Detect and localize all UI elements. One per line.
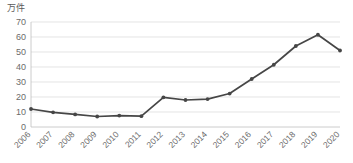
y-axis-tick-label: 10 [16, 107, 26, 117]
y-axis-tick-label: 30 [16, 77, 26, 87]
x-axis-tick-label: 2017 [255, 129, 276, 150]
data-point-marker [117, 114, 121, 118]
x-axis-tick-label: 2020 [321, 129, 342, 150]
data-point-marker [338, 49, 342, 53]
line-chart: 万件 010203040506070 200620072008200920102… [0, 0, 353, 163]
data-point-marker [162, 95, 166, 99]
y-axis-tick-label: 60 [16, 32, 26, 42]
y-axis-tick-label: 50 [16, 47, 26, 57]
data-point-marker [73, 113, 77, 117]
x-axis-tick-label: 2006 [12, 129, 33, 150]
data-point-markers [29, 33, 342, 119]
data-point-marker [272, 63, 276, 67]
data-point-marker [95, 115, 99, 119]
gridlines [31, 22, 340, 127]
y-axis-tick-labels: 010203040506070 [16, 17, 26, 132]
x-axis-tick-label: 2008 [56, 129, 77, 150]
x-axis-tick-label: 2013 [166, 129, 187, 150]
y-axis-tick-label: 70 [16, 17, 26, 27]
x-axis-tick-label: 2019 [299, 129, 320, 150]
chart-plot-area: 010203040506070 200620072008200920102011… [0, 0, 353, 163]
x-axis-tick-labels: 2006200720082009201020112012201320142015… [12, 129, 342, 150]
data-series-line [31, 35, 340, 117]
x-axis-tick-label: 2007 [34, 129, 55, 150]
data-point-marker [139, 114, 143, 118]
data-point-marker [206, 97, 210, 101]
data-point-marker [228, 92, 232, 96]
data-point-marker [316, 33, 320, 37]
x-axis-tick-label: 2010 [100, 129, 121, 150]
x-axis-tick-label: 2009 [78, 129, 99, 150]
x-axis-tick-label: 2018 [277, 129, 298, 150]
x-axis-tick-label: 2016 [233, 129, 254, 150]
y-axis-tick-label: 40 [16, 62, 26, 72]
data-point-marker [184, 98, 188, 102]
y-axis-tick-label: 20 [16, 92, 26, 102]
data-point-marker [294, 44, 298, 48]
x-axis-tick-label: 2015 [211, 129, 232, 150]
data-point-marker [250, 77, 254, 81]
data-point-marker [29, 107, 33, 111]
x-axis-tick-label: 2014 [189, 129, 210, 150]
x-axis-tick-label: 2011 [123, 129, 143, 149]
data-point-marker [51, 110, 55, 114]
x-axis-tick-label: 2012 [144, 129, 165, 150]
